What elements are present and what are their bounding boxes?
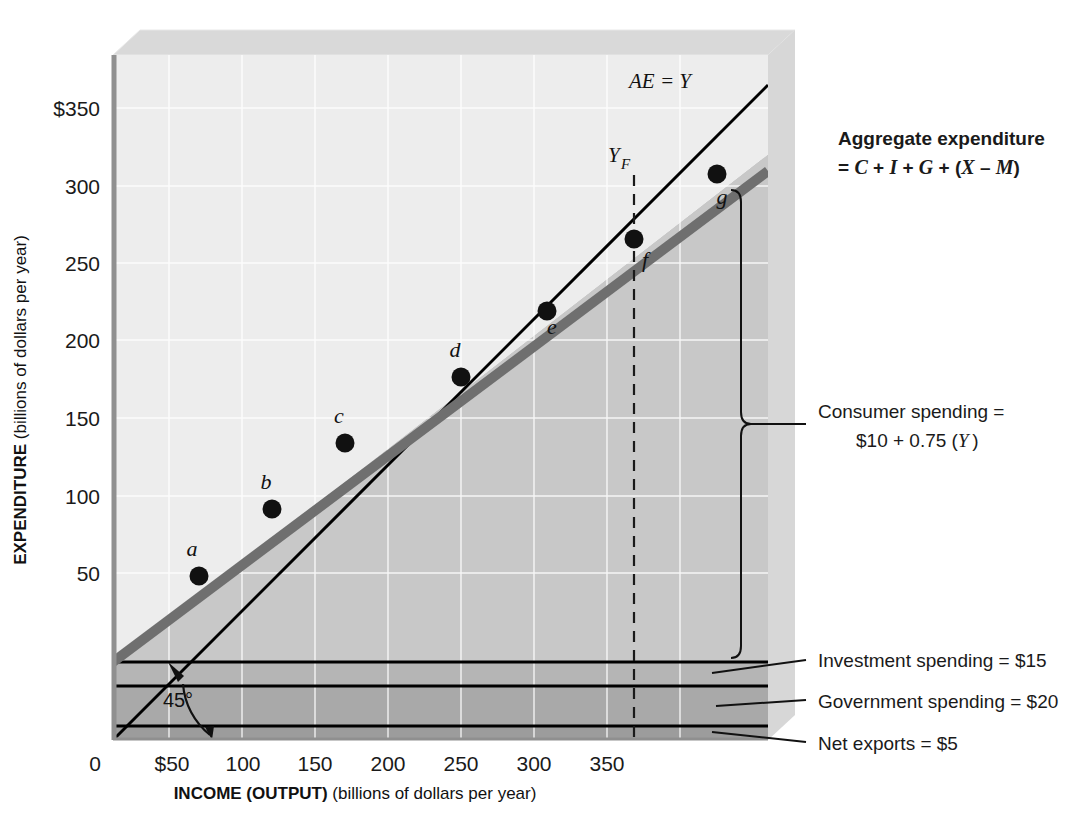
government-spending-label: Government spending = $20 [818, 691, 1058, 712]
point-label-g: g [717, 184, 728, 209]
x-tick-350: 350 [589, 752, 624, 775]
svg-text:F: F [620, 156, 631, 172]
y-axis-title: EXPENDITURE (billions of dollars per yea… [11, 235, 30, 565]
x-tick-250: 250 [443, 752, 478, 775]
data-point-g [708, 165, 727, 184]
box-right-slab [768, 30, 795, 740]
y-tick-300: 300 [65, 175, 100, 198]
x-tick-0: 0 [89, 752, 101, 775]
consumer-spending-formula: $10 + 0.75 (Y ) [856, 430, 979, 451]
band-government-spending [113, 687, 768, 726]
investment-spending-label: Investment spending = $15 [818, 650, 1047, 671]
x-axis-title-bold: INCOME (OUTPUT) [174, 784, 328, 803]
callout-government-spending: Government spending = $20 [818, 691, 1058, 712]
point-label-c: c [334, 403, 344, 428]
data-point-a [190, 567, 209, 586]
aggregate-expenditure-figure: a b c d e f g AE = Y Y F 45° $350 300 25… [0, 0, 1091, 818]
x-tick-50: $50 [154, 752, 189, 775]
box-top-slab [113, 30, 795, 55]
callout-aggregate-expenditure: Aggregate expenditure = C + I + G + (X –… [838, 128, 1045, 178]
x-tick-100: 100 [225, 752, 260, 775]
aggregate-expenditure-title: Aggregate expenditure [838, 128, 1045, 149]
y-axis-tick-labels: $350 300 250 200 150 100 50 [53, 97, 100, 585]
y-axis-title-rest: (billions of dollars per year) [11, 235, 30, 444]
callout-net-exports: Net exports = $5 [818, 733, 958, 754]
callout-investment-spending: Investment spending = $15 [818, 650, 1047, 671]
x-axis-title: INCOME (OUTPUT) (billions of dollars per… [174, 784, 537, 803]
y-tick-100: 100 [65, 485, 100, 508]
callout-consumer-spending: Consumer spending = $10 + 0.75 (Y ) [818, 401, 1004, 451]
ae-equals-y-label: AE = Y [627, 69, 693, 93]
point-label-d: d [450, 337, 462, 362]
point-label-b: b [261, 469, 272, 494]
x-axis-tick-labels: 0 $50 100 150 200 250 300 350 [89, 752, 624, 775]
data-point-f [625, 230, 644, 249]
data-point-c [336, 434, 355, 453]
angle-label-45-degrees: 45° [163, 689, 193, 711]
y-tick-200: 200 [65, 329, 100, 352]
y-axis-title-bold: EXPENDITURE [11, 444, 30, 565]
consumer-spending-label: Consumer spending = [818, 401, 1004, 422]
x-tick-300: 300 [516, 752, 551, 775]
x-axis-title-rest: (billions of dollars per year) [328, 784, 537, 803]
x-tick-200: 200 [370, 752, 405, 775]
y-tick-50: 50 [77, 562, 100, 585]
data-point-b [263, 500, 282, 519]
x-tick-150: 150 [297, 752, 332, 775]
point-label-e: e [547, 314, 557, 339]
point-label-a: a [187, 536, 198, 561]
data-point-d [452, 368, 471, 387]
net-exports-label: Net exports = $5 [818, 733, 958, 754]
y-tick-250: 250 [65, 252, 100, 275]
y-tick-150: 150 [65, 407, 100, 430]
band-investment-spending [113, 663, 768, 687]
y-tick-350: $350 [53, 97, 100, 120]
aggregate-expenditure-formula: = C + I + G + (X – M) [838, 156, 1020, 178]
chart-svg: a b c d e f g AE = Y Y F 45° $350 300 25… [0, 0, 1091, 818]
